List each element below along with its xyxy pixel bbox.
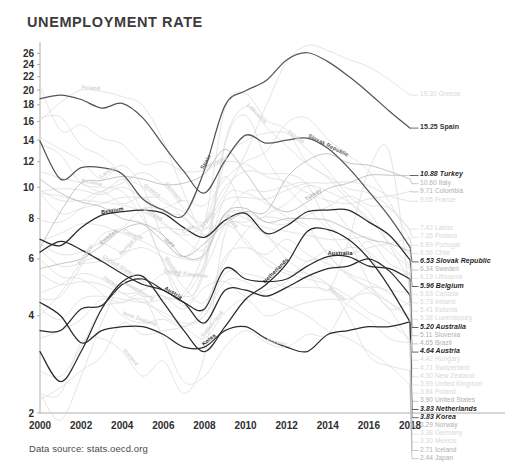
legend-value: 4.71: [420, 364, 435, 371]
legend-label-new-zealand[interactable]: 4.30 New Zealand: [420, 372, 474, 379]
legend-label-poland[interactable]: 3.84 Poland: [420, 388, 456, 395]
series-inline-label: Japan: [102, 274, 119, 288]
legend-label-norway[interactable]: 3.29 Norway: [420, 421, 458, 428]
legend-value: 5.20: [420, 323, 436, 330]
legend-country-name: Finland: [435, 232, 457, 239]
legend-label-canada[interactable]: 5.63 Canada: [420, 290, 458, 297]
y-axis-tick-label: 14: [23, 135, 35, 146]
y-axis-tick-label: 2: [28, 408, 34, 419]
legend-label-latvia[interactable]: 7.42 Latvia: [420, 224, 453, 231]
series-inline-label: United Kingdom: [163, 268, 208, 280]
legend-country-name: Iceland: [435, 446, 457, 453]
legend-value: 2.44: [420, 454, 435, 461]
x-axis-tick-label: 2014: [317, 420, 340, 431]
legend-label-chile[interactable]: 6.96 Chile: [420, 249, 450, 256]
series-line: [40, 171, 410, 310]
legend-country-name: Ireland: [435, 298, 456, 305]
legend-country-name: Canada: [435, 290, 458, 297]
legend-value: 9.05: [420, 196, 435, 203]
series-line: [40, 190, 410, 319]
legend-label-lithuania[interactable]: 6.19 Lithuania: [420, 273, 462, 280]
legend-label-luxembourg[interactable]: 5.38 Luxembourg: [420, 314, 472, 321]
y-axis-tick-label: 8: [28, 213, 34, 224]
legend-label-netherlands[interactable]: 3.83 Netherlands: [420, 405, 477, 412]
legend-label-australia[interactable]: 5.20 Australia: [420, 323, 466, 330]
legend-value: 6.89: [420, 241, 435, 248]
legend-label-belgium[interactable]: 5.96 Belgium: [420, 282, 464, 289]
legend-label-colombia[interactable]: 9.71 Colombia: [420, 187, 463, 194]
legend-leader-line: [410, 238, 419, 254]
legend-label-greece[interactable]: 19.30 Greece: [420, 90, 461, 97]
legend-value: 3.84: [420, 388, 435, 395]
legend-value: 5.73: [420, 298, 435, 305]
legend-value: 9.71: [420, 187, 435, 194]
legend-country-name: Greece: [439, 90, 461, 97]
y-axis-tick-label: 6: [28, 253, 34, 264]
legend-label-united-states[interactable]: 3.90 United States: [420, 396, 475, 403]
legend-value: 5.96: [420, 282, 436, 289]
legend-country-name: Slovak Republic: [436, 257, 491, 264]
chart-series: [40, 45, 410, 420]
legend-country-name: Italy: [439, 179, 451, 186]
legend-value: 6.53: [420, 257, 436, 264]
chart-page: UNEMPLOYMENT RATE 2624222018161412108642…: [0, 0, 518, 468]
y-axis-tick-label: 16: [23, 116, 35, 127]
legend-leader-line: [410, 191, 419, 192]
series-line: [40, 154, 410, 257]
legend-label-slovak-republic[interactable]: 6.53 Slovak Republic: [420, 257, 491, 264]
right-label-leaders: [410, 95, 419, 459]
legend-label-slovenia[interactable]: 5.11 Slovenia: [420, 331, 460, 338]
legend-country-name: Slovenia: [434, 331, 460, 338]
legend-country-name: New Zealand: [435, 372, 474, 379]
series-inline-label: Italy: [163, 236, 176, 248]
x-axis-tick-label: 2004: [111, 420, 134, 431]
x-axis-tick-label: 2012: [276, 420, 299, 431]
legend-label-mexico[interactable]: 3.30 Mexico: [420, 437, 456, 444]
legend-value: 3.83: [420, 413, 436, 420]
legend-label-spain[interactable]: 15.25 Spain: [420, 123, 459, 130]
legend-label-finland[interactable]: 7.35 Finland: [420, 232, 457, 239]
legend-value: 3.99: [420, 380, 435, 387]
legend-label-sweden[interactable]: 6.34 Sweden: [420, 265, 459, 272]
legend-label-korea[interactable]: 3.83 Korea: [420, 413, 456, 420]
legend-label-austria[interactable]: 4.64 Austria: [420, 347, 460, 354]
legend-value: 6.19: [420, 273, 435, 280]
legend-label-ireland[interactable]: 5.73 Ireland: [420, 298, 455, 305]
legend-value: 19.30: [420, 90, 439, 97]
legend-country-name: Belgium: [436, 282, 464, 289]
y-axis-tick-label: 4: [28, 310, 34, 321]
legend-value: 4.64: [420, 347, 436, 354]
series-inline-label: Ireland: [287, 128, 306, 145]
legend-value: 6.34: [420, 265, 435, 272]
legend-label-turkey[interactable]: 10.88 Turkey: [420, 170, 463, 177]
legend-label-hungary[interactable]: 4.42 Hungary: [420, 355, 460, 362]
legend-label-switzerland[interactable]: 4.71 Switzerland: [420, 364, 470, 371]
legend-value: 3.38: [420, 429, 435, 436]
y-axis-tick-label: 26: [23, 48, 35, 59]
legend-country-name: Luxembourg: [435, 314, 472, 321]
legend-country-name: Sweden: [435, 265, 459, 272]
legend-label-portugal[interactable]: 6.89 Portugal: [420, 241, 460, 248]
series-inline-label: Poland: [81, 84, 101, 91]
legend-value: 7.42: [420, 224, 435, 231]
legend-label-japan[interactable]: 2.44 Japan: [420, 454, 453, 461]
legend-country-name: Austria: [436, 347, 460, 354]
legend-value: 10.60: [420, 179, 439, 186]
legend-country-name: Brazil: [435, 339, 452, 346]
legend-label-italy[interactable]: 10.60 Italy: [420, 179, 451, 186]
legend-country-name: Portugal: [435, 241, 460, 248]
legend-label-iceland[interactable]: 2.71 Iceland: [420, 446, 457, 453]
series-inline-label: Norway: [266, 337, 287, 347]
y-axis-tick-label: 18: [23, 99, 35, 110]
x-axis-tick-label: 2016: [358, 420, 381, 431]
x-axis-tick-label: 2000: [29, 420, 52, 431]
legend-label-germany[interactable]: 3.38 Germany: [420, 429, 462, 436]
legend-label-estonia[interactable]: 5.41 Estonia: [420, 306, 457, 313]
y-axis-tick-label: 24: [23, 59, 35, 70]
legend-label-france[interactable]: 9.05 France: [420, 196, 456, 203]
legend-country-name: Japan: [435, 454, 453, 461]
legend-value: 10.88: [420, 170, 440, 177]
legend-label-united-kingdom[interactable]: 3.99 United Kingdom: [420, 380, 483, 387]
legend-label-brazil[interactable]: 4.65 Brazil: [420, 339, 452, 346]
legend-value: 7.35: [420, 232, 435, 239]
